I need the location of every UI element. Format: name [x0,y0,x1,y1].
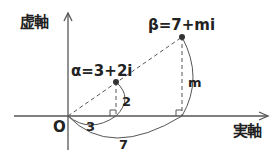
beta-point [179,34,185,40]
alpha-right-angle-mark [110,110,116,116]
origin-label: O [53,120,66,135]
imaginary-axis-label: 虚軸 [20,15,48,30]
beta-right-angle-mark [176,110,182,116]
real-axis-label: 実軸 [233,124,261,139]
alpha-imag-measure: 2 [122,95,131,108]
alpha-real-measure: 3 [86,120,95,133]
alpha-label: α=3+2i [71,64,132,79]
beta-real-measure: 7 [119,138,128,151]
beta-label: β=7+mi [148,18,215,33]
beta-imag-measure: m [188,76,202,89]
